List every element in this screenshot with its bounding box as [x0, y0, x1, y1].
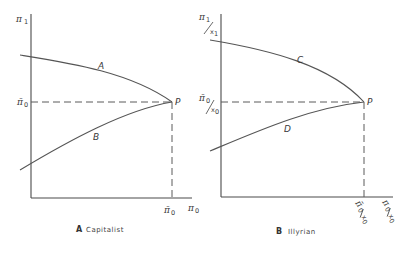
- panel-illyrian: π 1 x 1 C D P π̄ 0 x 0 π̄ 0: [198, 12, 402, 236]
- caption-letter-a: A: [76, 225, 83, 234]
- svg-text:π: π: [198, 12, 206, 22]
- caption-text-b: Illyrian: [288, 228, 316, 236]
- svg-text:π̄: π̄: [198, 93, 206, 103]
- curve-d-label: D: [284, 124, 291, 134]
- svg-text:1: 1: [206, 16, 210, 24]
- caption-letter-b: B: [276, 227, 282, 236]
- curve-b-label: B: [93, 132, 99, 142]
- y-tick-label-b: π̄ 0 x 0: [198, 93, 219, 116]
- caption-text-a: Capitalist: [86, 226, 124, 234]
- x-axis-label-b: π 0 x 0: [376, 197, 402, 225]
- y-axis-sub-a: 1: [24, 18, 28, 26]
- curve-c: [210, 40, 364, 102]
- svg-text:1: 1: [214, 30, 218, 38]
- svg-text:0: 0: [206, 97, 210, 105]
- y-tick-label-a: π̄: [16, 97, 24, 107]
- y-axis-label-a: π: [15, 14, 23, 24]
- diagram-figure: π 1 A B P π̄ 0 π̄ 0 π 0 A Capitalist: [0, 0, 410, 253]
- x-axis-label-a: π: [187, 203, 195, 213]
- svg-text:0: 0: [215, 108, 219, 116]
- point-p-label-b: P: [367, 97, 373, 107]
- curve-a: [20, 55, 172, 102]
- x-tick-sub-a: 0: [171, 209, 175, 217]
- panel-capitalist: π 1 A B P π̄ 0 π̄ 0 π 0 A Capitalist: [15, 14, 199, 234]
- curve-c-label: C: [297, 55, 304, 65]
- x-tick-label-b: π̄ 0 x 0: [349, 198, 375, 226]
- y-tick-sub-a: 0: [24, 101, 28, 109]
- curve-a-label: A: [97, 61, 104, 71]
- point-p-label-a: P: [175, 97, 181, 107]
- x-axis-sub-a: 0: [195, 207, 199, 215]
- y-axis-label-b: π 1 x 1: [198, 12, 218, 38]
- x-tick-label-a: π̄: [163, 205, 171, 215]
